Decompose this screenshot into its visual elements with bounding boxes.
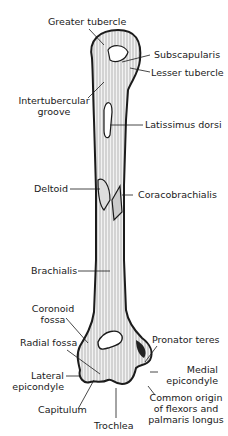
label-capitulum: Capitulum: [38, 404, 87, 415]
label-coracobrachialis: Coracobrachialis: [138, 189, 217, 200]
label-line: fossa: [41, 314, 66, 325]
label-line: Medial: [187, 364, 218, 375]
label-line: epicondyle: [166, 375, 218, 386]
label-latissimus-dorsi: Latissimus dorsi: [145, 119, 222, 130]
label-medial-epicondyle: Medial epicondyle: [160, 364, 218, 386]
label-line: palmaris longus: [148, 414, 224, 425]
label-line: groove: [38, 106, 71, 117]
label-coronoid-fossa: Coronoid fossa: [28, 303, 78, 325]
label-line: Coronoid: [32, 303, 74, 314]
label-line: epicondyle: [12, 381, 64, 392]
label-common-origin: Common origin of flexors and palmaris lo…: [146, 392, 226, 425]
label-line: Lateral: [31, 370, 64, 381]
label-brachialis: Brachialis: [31, 265, 77, 276]
label-subscapularis: Subscapularis: [154, 49, 220, 60]
label-lesser-tubercle: Lesser tubercle: [151, 67, 224, 78]
label-lateral-epicondyle: Lateral epicondyle: [12, 370, 64, 392]
label-line: of flexors and: [154, 403, 219, 414]
label-radial-fossa: Radial fossa: [20, 337, 77, 348]
label-pronator-teres: Pronator teres: [152, 334, 219, 345]
label-intertubercular-groove: Intertubercular groove: [16, 95, 92, 117]
label-trochlea: Trochlea: [94, 420, 133, 431]
label-line: Common origin: [150, 392, 223, 403]
humerus-diagram: Greater tubercle Subscapularis Lesser tu…: [0, 0, 228, 436]
label-greater-tubercle: Greater tubercle: [48, 16, 126, 27]
label-deltoid: Deltoid: [34, 183, 68, 194]
label-line: Intertubercular: [18, 95, 89, 106]
